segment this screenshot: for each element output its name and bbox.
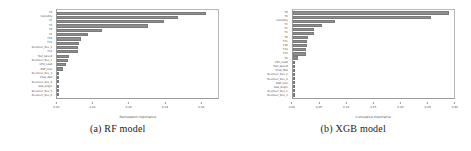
y-axis-label: CPU_Load: [10, 63, 54, 66]
bar-row: [293, 28, 454, 31]
y-axis-label: Humidity: [10, 15, 54, 18]
tick-text: 0.03: [162, 105, 168, 109]
bar: [293, 77, 295, 80]
bar-row: [57, 16, 218, 19]
y-axis-label: Revolver_Rev_3: [246, 94, 290, 97]
y-axis-labels-rf: T4HumidityT2T3T9T1T10T11Revolver_Rev_1T1…: [10, 9, 54, 99]
bar-row: [293, 11, 454, 14]
y-axis-label: Revolver_Rev_5: [10, 90, 54, 93]
y-axis-label: T11: [246, 40, 290, 43]
x-axis-tick-label: 0.10: [343, 102, 349, 109]
bar: [293, 28, 314, 31]
bars-container-rf: [57, 10, 218, 98]
y-axis-label: Revolver_Rev_2: [246, 73, 290, 76]
bar-row: [293, 69, 454, 72]
x-axis-tick-label: 0.15: [370, 102, 376, 109]
bar-row: [57, 80, 218, 83]
tick-text: 0.30: [452, 105, 458, 109]
bar: [57, 16, 178, 19]
bar-row: [293, 36, 454, 39]
bar-row: [293, 32, 454, 35]
bar-row: [293, 65, 454, 68]
bar: [293, 61, 295, 64]
y-axis-label: Revolver_Rev_4: [246, 78, 290, 81]
tick-text: 0.20: [397, 105, 403, 109]
subfigure-caption-xgb: (b) XGB model: [321, 123, 386, 134]
bar: [293, 16, 431, 19]
bar-row: [57, 50, 218, 53]
bar-row: [293, 52, 454, 55]
bar-row: [57, 42, 218, 45]
bar: [57, 85, 59, 88]
y-axis-label: DSP_Link: [10, 68, 54, 71]
bar: [57, 59, 67, 62]
bar-row: [57, 63, 218, 66]
x-axis-tick-label: 0.20: [397, 102, 403, 109]
bar-row: [293, 73, 454, 76]
y-axis-label: T6: [246, 36, 290, 39]
bar: [293, 81, 295, 84]
y-axis-label: CPU_Load: [246, 61, 290, 64]
bar: [57, 37, 81, 40]
bar-row: [57, 93, 218, 96]
bar-row: [293, 61, 454, 64]
x-axis-ticks-xgb: 0.000.050.100.150.200.250.30: [292, 102, 455, 111]
y-axis-label: Revolver_Rev_2: [10, 59, 54, 62]
bar-row: [293, 20, 454, 23]
y-axis-label: T10: [10, 37, 54, 40]
bar-row: [293, 44, 454, 47]
y-axis-label: Chat_Mat: [246, 69, 290, 72]
y-axis-label: Revolver_Rev_1: [10, 46, 54, 49]
bar: [293, 40, 307, 43]
y-axis-label: DSP_Link: [246, 82, 290, 85]
subfigure-caption-rf: (a) RF model: [90, 123, 146, 134]
x-axis-ticks-rf: 0.000.010.020.030.04: [56, 102, 219, 111]
y-axis-label: T8: [246, 57, 290, 60]
bar-row: [57, 37, 218, 40]
bar: [293, 24, 322, 27]
bar-row: [293, 89, 454, 92]
bar: [57, 55, 68, 58]
y-axis-label: T11: [10, 41, 54, 44]
y-axis-label: Revolver_Rev_6: [10, 94, 54, 97]
y-axis-label: T14: [246, 48, 290, 51]
bar: [293, 65, 295, 68]
x-axis-tick-label: 0.00: [53, 102, 59, 109]
y-axis-label: Revolver_Rev_4: [10, 81, 54, 84]
x-axis-tick-label: 0.03: [162, 102, 168, 109]
bar: [57, 46, 78, 49]
bar: [293, 11, 449, 14]
y-axis-labels-xgb: T9T4HumidityT2T1T3T6T11T10T14T13T8CPU_Lo…: [246, 9, 290, 99]
y-axis-label: Chat_Mat: [10, 76, 54, 79]
bar: [57, 89, 59, 92]
y-axis-label: T3: [246, 31, 290, 34]
y-axis-label: T2: [10, 19, 54, 22]
bar-row: [57, 55, 218, 58]
tick-text: 0.25: [424, 105, 430, 109]
bar-row: [57, 24, 218, 27]
bar: [57, 63, 66, 66]
y-axis-label: T3: [10, 24, 54, 27]
bar: [57, 29, 102, 32]
y-axis-label: Revolver_Rev_1: [246, 90, 290, 93]
tick-text: 0.02: [126, 105, 132, 109]
bar-row: [293, 16, 454, 19]
bar: [293, 93, 295, 96]
y-axis-label: Stat_Angle: [246, 86, 290, 89]
bar: [57, 42, 79, 45]
bar-row: [293, 48, 454, 51]
bar-row: [57, 89, 218, 92]
bar-row: [293, 77, 454, 80]
bar-row: [293, 24, 454, 27]
bar: [57, 93, 59, 96]
bar-row: [57, 67, 218, 70]
y-axis-label: T1: [246, 27, 290, 30]
tick-text: 0.04: [198, 105, 204, 109]
bar-row: [293, 56, 454, 59]
bar: [57, 33, 88, 36]
bar-row: [293, 81, 454, 84]
plot-area-xgb: T9T4HumidityT2T1T3T6T11T10T14T13T8CPU_Lo…: [246, 3, 461, 121]
x-axis-tick-label: 0.01: [89, 102, 95, 109]
x-axis-tick-label: 0.00: [289, 102, 295, 109]
bar-row: [57, 12, 218, 15]
